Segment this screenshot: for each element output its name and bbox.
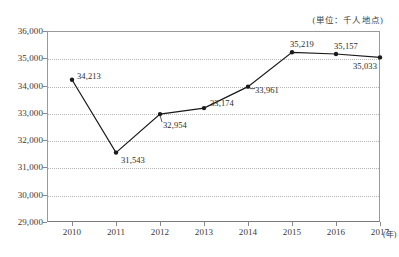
gridline: [48, 141, 379, 142]
y-axis-tick-label: 31,000: [18, 162, 43, 172]
data-point-label: 35,033: [353, 61, 377, 71]
data-point-label: 35,219: [290, 39, 314, 49]
gridline: [48, 196, 379, 197]
y-axis-tick-label: 30,000: [18, 190, 43, 200]
data-point-label: 31,543: [121, 155, 145, 165]
data-point-label: 32,954: [163, 120, 187, 130]
x-axis-tick-label: 2015: [283, 227, 301, 237]
unit-caption: (単位：千人地点): [313, 13, 383, 25]
x-axis-tick-mark: [116, 222, 117, 226]
x-axis-tick-mark: [380, 222, 381, 226]
x-axis-tick-mark: [336, 222, 337, 226]
y-axis-tick-label: 29,000: [18, 217, 43, 227]
y-axis-tick-mark: [43, 195, 47, 196]
data-point-label: 35,157: [334, 41, 358, 51]
x-axis-tick-mark: [204, 222, 205, 226]
data-point-label: 34,213: [77, 71, 101, 81]
gridline: [48, 168, 379, 169]
data-point-label: 33,961: [255, 85, 279, 95]
gridline: [48, 59, 379, 60]
x-axis-tick-label: 2014: [239, 227, 257, 237]
y-axis-tick-mark: [43, 113, 47, 114]
x-axis-tick-mark: [72, 222, 73, 226]
y-axis-tick-mark: [43, 140, 47, 141]
y-axis-tick-label: 34,000: [18, 81, 43, 91]
x-axis-tick-label: 2011: [107, 227, 125, 237]
x-axis-tick-label: 2012: [151, 227, 169, 237]
data-point-label: 33,174: [210, 98, 234, 108]
gridline: [48, 87, 379, 88]
y-axis-tick-mark: [43, 167, 47, 168]
y-axis-tick-label: 35,000: [18, 53, 43, 63]
gridline: [48, 114, 379, 115]
x-axis-tick-mark: [292, 222, 293, 226]
y-axis-tick-mark: [43, 58, 47, 59]
y-axis-tick-label: 33,000: [18, 108, 43, 118]
x-axis-tick-mark: [160, 222, 161, 226]
x-axis-unit-label: (年): [383, 228, 396, 239]
x-axis-tick-label: 2016: [327, 227, 345, 237]
x-axis-tick-mark: [248, 222, 249, 226]
y-axis-tick-mark: [43, 86, 47, 87]
x-axis-tick-label: 2010: [63, 227, 81, 237]
y-axis-tick-label: 36,000: [18, 26, 43, 36]
plot-area: [47, 31, 380, 222]
y-axis-tick-mark: [43, 31, 47, 32]
y-axis-tick-label: 32,000: [18, 135, 43, 145]
x-axis-tick-label: 2013: [195, 227, 213, 237]
line-chart: (単位：千人地点) 36,00035,00034,00033,00032,000…: [0, 0, 399, 257]
y-axis-tick-mark: [43, 222, 47, 223]
